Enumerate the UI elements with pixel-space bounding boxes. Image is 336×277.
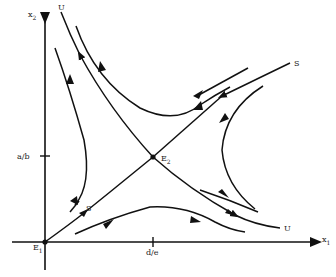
stable-manifold-label-lower: S (86, 204, 91, 213)
equilibrium-e2-dot (150, 154, 155, 159)
x-axis-arrow-icon (310, 237, 322, 247)
x-axis-label: x1 (322, 235, 330, 246)
stable-manifold-lower (84, 157, 153, 213)
equilibrium-e2-label: E2 (161, 154, 171, 165)
unstable-manifold-label-lower: U (284, 224, 291, 233)
unstable-manifold-label-upper: U (58, 3, 65, 12)
phase-portrait: x2 x1 a/b d/e E1 E2 S S U U (0, 0, 336, 277)
equilibrium-e1-label: E1 (33, 243, 43, 254)
trajectory-bottom-arrow2-icon (190, 216, 201, 223)
unstable-manifold-upper-cont (61, 12, 80, 55)
equilibrium-e1-dot (42, 239, 47, 244)
unstable-manifold-lower-cont (235, 215, 280, 228)
y-axis-label: x2 (28, 10, 37, 21)
stable-manifold-upper-cont (153, 96, 222, 157)
trajectory-left (55, 48, 87, 205)
stable-manifold-label-upper: S (294, 59, 299, 68)
trajectory-top-arrow-icon (98, 61, 106, 72)
trajectory-right (222, 86, 263, 209)
unstable-manifold-upper (80, 55, 153, 157)
y-axis-arrow-icon (40, 12, 50, 24)
trajectory-right-arrow-icon (219, 113, 229, 123)
trajectory-bottom (75, 207, 245, 234)
trajectory-left-arrow-icon (66, 74, 74, 84)
trajectory-right-lower (200, 190, 258, 212)
trajectory-top-arrow2-icon (193, 101, 203, 110)
x-tick-label: d/e (146, 248, 159, 257)
y-tick-label: a/b (17, 152, 30, 161)
